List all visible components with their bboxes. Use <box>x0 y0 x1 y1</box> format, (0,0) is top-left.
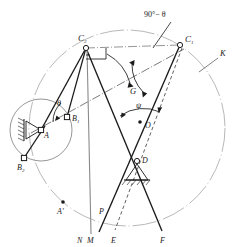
label-D: D <box>141 156 148 165</box>
label-K: K <box>219 48 227 58</box>
arc-arrow-G <box>107 54 134 88</box>
label-E: E <box>110 236 116 245</box>
node-A-prime-marker <box>61 200 65 204</box>
link-c2-b1 <box>67 48 86 117</box>
label-M: M <box>86 236 95 245</box>
label-B2: B2 <box>17 163 25 173</box>
node-C2-marker <box>83 45 88 50</box>
node-B2-marker <box>21 155 26 160</box>
node-A-marker <box>38 127 43 132</box>
label-C2: C2 <box>78 33 87 44</box>
label-C1: C1 <box>185 34 194 45</box>
label-90-minus-theta: 90°− θ <box>144 10 166 19</box>
label-B1: B1 <box>72 114 79 124</box>
figure-canvas: C2 C1 B1 B2 A A' D O G K N M P E F θ ψ 9… <box>0 0 240 247</box>
link-c2-a <box>41 48 86 130</box>
link-c2-f <box>86 48 162 231</box>
label-psi: ψ <box>136 100 142 110</box>
label-theta: θ <box>57 99 61 108</box>
linkage-diagram-svg: C2 C1 B1 B2 A A' D O G K N M P E F θ ψ 9… <box>0 0 240 247</box>
node-O-marker <box>138 120 142 124</box>
label-F: F <box>159 236 165 245</box>
label-O: O <box>145 121 151 130</box>
dashdot-line-A-C1 <box>31 49 184 133</box>
label-P: P <box>98 207 104 216</box>
node-C1-marker <box>177 42 182 47</box>
node-B1-marker <box>64 114 69 119</box>
label-N: N <box>76 236 83 245</box>
vertical-c2-n <box>87 48 91 234</box>
label-G: G <box>130 86 136 96</box>
node-D-marker <box>134 158 139 163</box>
chord-c2-c1 <box>86 45 180 48</box>
dashed-c1-e <box>115 48 182 230</box>
label-A: A <box>43 131 49 140</box>
label-A-prime: A' <box>56 207 64 216</box>
